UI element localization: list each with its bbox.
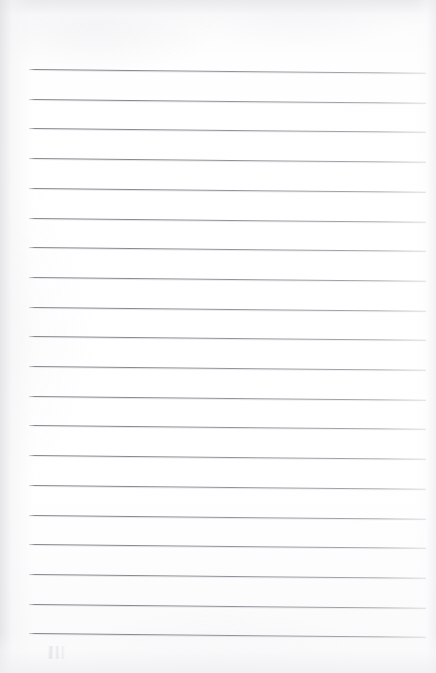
ruled-line [29,574,426,579]
ruled-line [29,336,426,341]
ruled-line [29,69,426,74]
ruled-line [29,604,426,609]
ruled-line [29,633,426,638]
ruled-line [29,99,426,104]
ruled-line [29,158,426,163]
ruled-line [29,277,426,282]
ruled-line [29,455,426,460]
ruling-lines-group [0,0,436,673]
scanned-page: Blank ruled notebook page [0,0,436,673]
ruled-line [29,396,426,401]
ruled-line [29,544,426,549]
ruled-line [29,515,426,520]
ruled-line [29,366,426,371]
ruled-line [29,247,426,252]
ruled-line [29,485,426,490]
ruled-line [29,307,426,312]
ruled-line [29,188,426,193]
ruled-line [29,218,426,223]
ruled-line [29,128,426,133]
ruled-line [29,425,426,430]
pencil-smudge-mark [48,646,66,659]
